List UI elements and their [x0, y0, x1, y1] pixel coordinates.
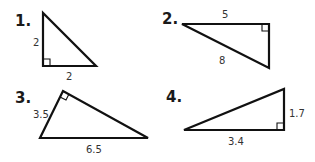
problem-1: 1. 2 2 [15, 12, 96, 82]
problem-2: 2. 5 8 [162, 9, 269, 68]
side-label-hypotenuse: 8 [219, 55, 225, 66]
side-label-hypotenuse: 6.5 [86, 144, 102, 155]
side-label-leg: 3.5 [33, 109, 49, 120]
triangle [43, 13, 96, 66]
triangle [182, 24, 269, 68]
right-triangles-diagram: 1. 2 2 2. 5 8 3. 3.5 6.5 4. 1.7 3.4 [0, 0, 315, 162]
problem-number: 3. [15, 89, 31, 107]
triangle [184, 89, 284, 130]
side-label-vertical: 1.7 [289, 108, 305, 119]
problem-number: 1. [15, 12, 31, 30]
problem-number: 4. [166, 88, 182, 106]
side-label-vertical: 2 [33, 37, 39, 48]
triangle [40, 91, 148, 138]
problem-number: 2. [162, 10, 178, 28]
problem-4: 4. 1.7 3.4 [166, 88, 305, 147]
side-label-horizontal: 3.4 [228, 136, 244, 147]
problem-3: 3. 3.5 6.5 [15, 89, 148, 155]
side-label-horizontal: 2 [66, 71, 72, 82]
side-label-top: 5 [222, 9, 228, 20]
